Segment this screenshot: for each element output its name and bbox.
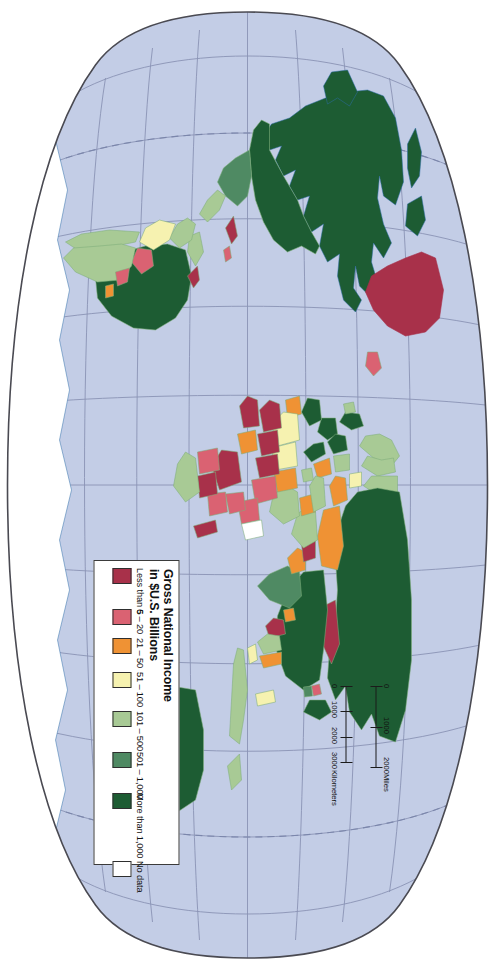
legend-item: More than 1,000 (112, 793, 144, 857)
region-zambia (197, 472, 217, 498)
region-chad (255, 454, 279, 478)
region-antarctica (5, 40, 71, 930)
legend-item-label: 101 – 500 (134, 711, 144, 751)
legend-item-swatch (112, 638, 131, 654)
miles-tick-label: 1000 (381, 717, 390, 734)
legend-item-swatch (112, 861, 131, 877)
rotated-map-container: Gross National Income in $U.S. Billions … (0, 0, 495, 970)
region-uruguay (105, 284, 113, 298)
legend-item-label: No data (134, 861, 144, 893)
legend-item-swatch (112, 711, 131, 727)
kilometers-tick (340, 711, 352, 712)
legend-item: 6 – 20 (112, 609, 144, 634)
legend-item: 21 – 50 (112, 638, 144, 668)
legend-item-label: 6 – 20 (134, 609, 144, 634)
legend-item-label: More than 1,000 (134, 793, 144, 858)
legend-item: 501 – 1,000 (112, 752, 144, 789)
miles-tick-label: 0 (381, 684, 390, 688)
legend-item: No data (112, 861, 144, 893)
legend-title-line1: Gross National Income (159, 569, 173, 857)
map-stage: Gross National Income in $U.S. Billions … (0, 0, 495, 970)
miles-tick (370, 727, 382, 728)
region-baltics (349, 472, 361, 488)
kilometers-tick-label: 3000 (329, 752, 338, 769)
legend-item: Less than 5 (112, 568, 144, 605)
world-map-svg (0, 0, 495, 970)
map-figure: Gross National Income in $U.S. Billions … (0, 0, 495, 970)
miles-tick (370, 686, 382, 687)
region-angola (197, 448, 219, 474)
scale-bar: 0 1000 2000 Miles 0 1000 2000 3000 Kilom… (326, 686, 390, 802)
legend-item-label: Less than 5 (134, 568, 144, 614)
miles-tick-label: 2000 (381, 757, 390, 774)
kilometers-unit-label: Kilometers (329, 770, 338, 806)
kilometers-tick-label: 1000 (329, 701, 338, 718)
kilometers-tick (340, 737, 352, 738)
region-poland (333, 454, 349, 472)
map-legend: Gross National Income in $U.S. Billions … (93, 560, 179, 865)
miles-tick (370, 767, 382, 768)
legend-item-swatch (112, 752, 131, 768)
region-south-korea (303, 686, 312, 697)
kilometers-tick (340, 686, 352, 687)
legend-title: Gross National Income in $U.S. Billions (146, 569, 173, 857)
legend-item-label: 21 – 50 (134, 638, 144, 668)
legend-title-line2: in $U.S. Billions (146, 569, 160, 857)
kilometers-tick (340, 762, 352, 763)
legend-item: 51 – 100 (112, 672, 144, 707)
legend-item-label: 51 – 100 (134, 672, 144, 707)
miles-unit-label: Miles (381, 774, 390, 792)
legend-item: 101 – 500 (112, 711, 144, 748)
legend-item-swatch (112, 672, 131, 688)
legend-items: Less than 5 6 – 20 21 – 50 51 – 100 (112, 568, 144, 857)
kilometers-tick-label: 2000 (329, 727, 338, 744)
kilometers-tick-label: 0 (329, 684, 338, 688)
legend-item-swatch (112, 793, 131, 809)
legend-item-swatch (112, 568, 131, 584)
kilometers-bar (345, 686, 346, 763)
legend-item-swatch (112, 609, 131, 625)
